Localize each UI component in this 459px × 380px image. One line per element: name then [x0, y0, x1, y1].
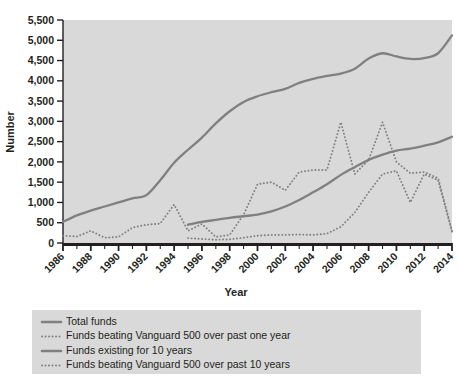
legend-label-1: Total funds [66, 315, 117, 327]
y-tick-label: 2,000 [28, 156, 54, 168]
legend-label-4: Funds beating Vanguard 500 over past 10 … [66, 358, 290, 370]
y-tick-label: 1,000 [28, 196, 54, 208]
x-tick-label: 2002 [264, 250, 289, 275]
x-tick-label: 2008 [347, 250, 372, 275]
y-tick-label: 4,500 [28, 54, 54, 66]
x-axis-title: Year [224, 286, 248, 298]
x-tick-label: 1998 [208, 250, 233, 275]
x-axis-line [63, 243, 452, 246]
plot-background [63, 20, 452, 243]
y-tick-label: 0 [48, 237, 54, 249]
x-tick-label: 1990 [97, 250, 122, 275]
chart-svg: 05001,0001,5002,0002,5003,0003,5004,0004… [0, 0, 459, 380]
legend-label-3: Funds existing for 10 years [66, 344, 192, 356]
x-tick-label: 2010 [375, 250, 400, 275]
y-tick-label: 500 [36, 216, 54, 228]
y-axis-ticks [57, 20, 63, 243]
y-tick-label: 4,000 [28, 74, 54, 86]
x-tick-label: 2012 [403, 250, 428, 275]
x-tick-label: 1988 [69, 250, 94, 275]
x-tick-label: 2006 [319, 250, 344, 275]
x-tick-label: 2000 [236, 250, 261, 275]
x-axis-tick-labels: 1986198819901992199419961998200020022004… [41, 250, 455, 275]
x-tick-label: 2014 [430, 250, 455, 275]
x-tick-label: 2004 [291, 250, 316, 275]
x-tick-label: 1986 [41, 250, 66, 275]
y-axis-tick-labels: 05001,0001,5002,0002,5003,0003,5004,0004… [28, 14, 54, 249]
x-tick-label: 1994 [153, 250, 178, 275]
y-tick-label: 5,500 [28, 14, 54, 26]
chart-figure: 05001,0001,5002,0002,5003,0003,5004,0004… [0, 0, 459, 380]
x-tick-label: 1992 [125, 250, 150, 275]
y-tick-label: 1,500 [28, 176, 54, 188]
y-tick-label: 3,000 [28, 115, 54, 127]
y-axis-title: Number [4, 111, 16, 153]
legend-label-2: Funds beating Vanguard 500 over past one… [66, 329, 291, 341]
x-tick-label: 1996 [180, 250, 205, 275]
y-tick-label: 3,500 [28, 95, 54, 107]
y-tick-label: 5,000 [28, 34, 54, 46]
y-tick-label: 2,500 [28, 135, 54, 147]
